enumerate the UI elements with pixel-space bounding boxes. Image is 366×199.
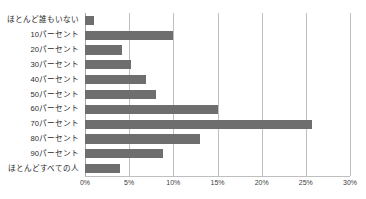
category-label: 30パーセント [31, 61, 79, 69]
x-tick-label: 5% [124, 179, 134, 186]
bar [85, 134, 200, 143]
category-label: ほとんど誰もいない [7, 16, 79, 24]
bar [85, 60, 131, 69]
bar [85, 90, 156, 99]
x-tick-label: 0% [80, 179, 90, 186]
category-label: 60パーセント [31, 105, 79, 113]
bar [85, 45, 122, 54]
bar [85, 120, 312, 129]
plot-area [85, 13, 350, 176]
bar-series [85, 13, 350, 176]
category-label: 90パーセント [31, 150, 79, 158]
bar [85, 16, 94, 25]
gridline-30pct [350, 13, 351, 176]
x-axis-baseline [85, 176, 350, 177]
bar [85, 75, 146, 84]
category-label: ほとんどすべての人 [8, 165, 79, 173]
x-tick-label: 25% [299, 179, 313, 186]
bar [85, 105, 218, 114]
category-label: 20パーセント [31, 46, 79, 54]
x-tick-label: 20% [255, 179, 269, 186]
bar [85, 149, 163, 158]
category-label: 80パーセント [31, 135, 79, 143]
x-tick-label: 15% [210, 179, 224, 186]
bar-chart: ほとんど誰もいない10パーセント20パーセント30パーセント40パーセント50パ… [0, 0, 366, 199]
category-label: 50パーセント [31, 91, 79, 99]
category-label: 70パーセント [31, 120, 79, 128]
bar [85, 164, 120, 173]
bar [85, 31, 173, 40]
category-label: 40パーセント [31, 76, 79, 84]
x-tick-label: 30% [343, 179, 357, 186]
category-label: 10パーセント [31, 31, 79, 39]
x-tick-label: 10% [166, 179, 180, 186]
category-axis-labels: ほとんど誰もいない10パーセント20パーセント30パーセント40パーセント50パ… [0, 13, 82, 176]
value-axis-labels: 0%5%10%15%20%25%30% [0, 179, 366, 195]
